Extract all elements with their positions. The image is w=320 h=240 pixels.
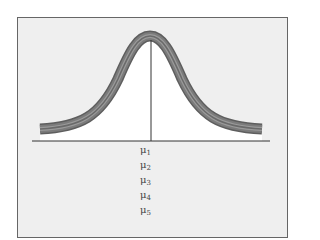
mean-label-4: μ4 <box>140 187 164 202</box>
mean-label-2: μ2 <box>140 157 164 172</box>
mean-label-5: μ5 <box>140 202 164 217</box>
mean-label-1: μ1 <box>140 142 164 157</box>
mean-label-3: μ3 <box>140 172 164 187</box>
mean-labels: μ1 μ2 μ3 μ4 μ5 <box>140 142 164 217</box>
